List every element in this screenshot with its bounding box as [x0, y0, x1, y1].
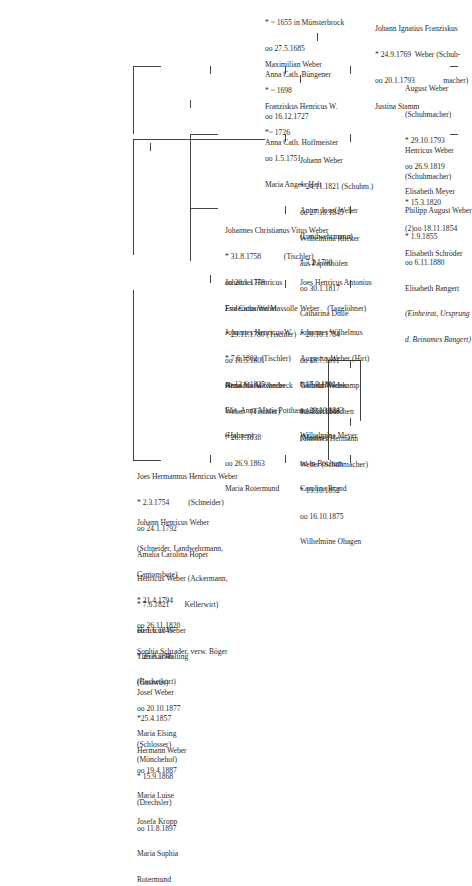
- connector: [190, 208, 218, 209]
- connector: [190, 134, 218, 135]
- connector: [133, 66, 161, 67]
- connector: [190, 134, 191, 260]
- connector: [133, 139, 265, 140]
- person-henricus-alexander: Henricus Alexander Weber (Tischler) * 26…: [225, 365, 286, 503]
- connector: [350, 66, 351, 74]
- person-hermann: Hermann Weber * 15.9.1868 (Drechsler) oo…: [137, 730, 187, 886]
- person-philipp: Philipp August Weber * 1.9.1855 oo 6.11.…: [405, 190, 472, 353]
- connector: [133, 66, 134, 134]
- connector: [133, 290, 134, 460]
- person-johann-1821: Johann Weber * 24.11.1821 (Schuhm.) oo 2…: [300, 140, 373, 278]
- connector: [150, 143, 151, 151]
- connector: [190, 100, 191, 108]
- connector: [190, 260, 191, 261]
- connector: [210, 275, 211, 283]
- connector: [210, 66, 211, 74]
- connector: [133, 139, 134, 255]
- person-johannes-hermann: Johannes Hermann Weber (Schuhmacher) * 1…: [300, 418, 368, 556]
